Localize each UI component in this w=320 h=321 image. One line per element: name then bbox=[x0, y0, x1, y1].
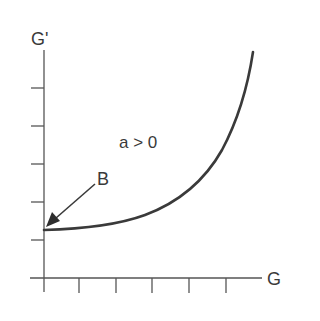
point-b-label: B bbox=[97, 170, 109, 188]
arrow-to-point-b bbox=[56, 184, 95, 218]
y-axis-label: G' bbox=[31, 30, 48, 48]
y-axis-ticks bbox=[31, 88, 44, 240]
condition-annotation: a > 0 bbox=[119, 134, 157, 151]
x-axis-label: G bbox=[267, 270, 281, 288]
x-axis-ticks bbox=[79, 278, 226, 293]
arrowhead-icon bbox=[46, 212, 60, 227]
